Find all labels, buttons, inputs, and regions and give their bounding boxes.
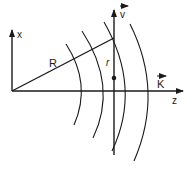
x-axis-label: x <box>17 29 22 40</box>
velocity-label: v <box>120 9 125 20</box>
observation-point <box>112 76 117 81</box>
distance-label: r <box>106 57 110 68</box>
wavefront-arc-4 <box>130 24 148 161</box>
wavefront-arc-2 <box>82 31 103 138</box>
z-axis-label: z <box>172 95 177 106</box>
wave-vector-label: K <box>157 78 165 90</box>
wavefront-diagram: x z R r v K <box>0 0 193 169</box>
radius-label: R <box>49 57 57 69</box>
diagram-svg: x z R r v K <box>0 0 193 169</box>
